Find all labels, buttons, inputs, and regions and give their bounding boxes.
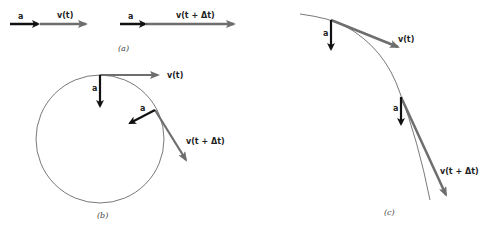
velocity-label: v(t) — [398, 35, 414, 44]
panel-a-row-2: a v(t + Δt) — [120, 11, 234, 24]
velocity-label: v(t) — [167, 71, 183, 80]
panel-b-point-2: a v(t + Δt) — [130, 104, 225, 160]
velocity-arrow — [401, 97, 446, 195]
panel-c-point-1: a v(t) — [323, 20, 414, 49]
acceleration-label: a — [323, 29, 328, 38]
velocity-arrow — [331, 20, 398, 47]
panel-c: a v(t) a v(t + Δt) (c) — [300, 14, 479, 217]
panel-caption: (c) — [384, 208, 395, 217]
acceleration-label: a — [92, 84, 97, 93]
acceleration-label: a — [393, 104, 398, 113]
panel-b-point-1: a v(t) — [92, 71, 183, 106]
motion-diagram: a v(t) a v(t + Δt) (a) a v(t) a v(t + Δt… — [0, 0, 485, 230]
acceleration-label: a — [140, 104, 145, 113]
velocity-label: v(t + Δt) — [176, 11, 215, 20]
velocity-label: v(t + Δt) — [186, 137, 225, 146]
velocity-arrow — [155, 110, 186, 160]
acceleration-label: a — [18, 12, 23, 21]
panel-a: a v(t) a v(t + Δt) (a) — [10, 11, 234, 53]
velocity-label: v(t + Δt) — [440, 167, 479, 176]
acceleration-label: a — [128, 12, 133, 21]
panel-caption: (b) — [97, 211, 108, 220]
panel-caption: (a) — [118, 44, 129, 53]
panel-a-row-1: a v(t) — [10, 11, 86, 24]
panel-c-point-2: a v(t + Δt) — [393, 97, 479, 195]
velocity-label: v(t) — [57, 11, 73, 20]
panel-b: a v(t) a v(t + Δt) (b) — [36, 71, 225, 220]
